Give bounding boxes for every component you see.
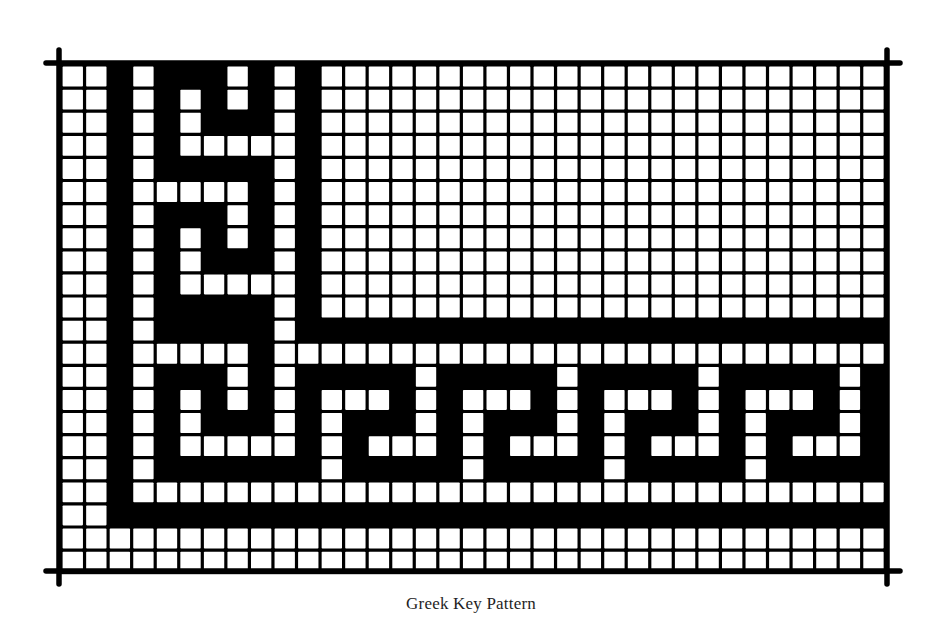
mosaic-tile-white (793, 228, 813, 248)
mosaic-tile-white (840, 90, 860, 110)
mosaic-tile-white (651, 90, 671, 110)
mosaic-tile-white (63, 298, 83, 318)
mosaic-tile-white (534, 298, 554, 318)
mosaic-tile-white (746, 67, 766, 87)
mosaic-tile-white (439, 482, 459, 502)
mosaic-tile-white (604, 67, 624, 87)
mosaic-tile-white (604, 390, 624, 410)
mosaic-tile-white (439, 67, 459, 87)
mosaic-tile-white (510, 251, 530, 271)
mosaic-tile-white (487, 390, 507, 410)
mosaic-tile-white (322, 275, 342, 295)
mosaic-tile-white (86, 529, 106, 549)
mosaic-tile-white (581, 136, 601, 156)
mosaic-tile-white (86, 228, 106, 248)
mosaic-tile-white (63, 344, 83, 364)
mosaic-tile-white (63, 67, 83, 87)
mosaic-tile-white (604, 251, 624, 271)
mosaic-tile-white (816, 228, 836, 248)
mosaic-tile-white (840, 228, 860, 248)
mosaic-tile-white (534, 529, 554, 549)
mosaic-tile-white (63, 113, 83, 133)
mosaic-tile-white (604, 205, 624, 225)
mosaic-tile-white (180, 436, 200, 456)
mosaic-tile-white (628, 344, 648, 364)
mosaic-tile-white (204, 182, 224, 202)
mosaic-tile-white (133, 413, 153, 433)
mosaic-tile-white (746, 90, 766, 110)
mosaic-tile-white (487, 298, 507, 318)
greek-key-mosaic-grid (0, 0, 950, 644)
mosaic-tile-white (345, 275, 365, 295)
mosaic-tile-white (463, 205, 483, 225)
mosaic-tile-white (369, 344, 389, 364)
mosaic-tile-white (722, 205, 742, 225)
mosaic-tile-white (369, 228, 389, 248)
mosaic-tile-white (322, 298, 342, 318)
mosaic-tile-white (86, 482, 106, 502)
mosaic-tile-white (227, 390, 247, 410)
mosaic-tile-white (227, 482, 247, 502)
mosaic-tile-white (439, 298, 459, 318)
mosaic-tile-white (369, 205, 389, 225)
mosaic-tile-white (557, 67, 577, 87)
mosaic-tile-white (133, 182, 153, 202)
mosaic-tile-white (840, 482, 860, 502)
mosaic-tile-white (86, 67, 106, 87)
mosaic-tile-white (133, 390, 153, 410)
mosaic-tile-white (86, 344, 106, 364)
mosaic-tile-white (534, 113, 554, 133)
mosaic-tile-white (746, 228, 766, 248)
mosaic-tile-white (651, 275, 671, 295)
mosaic-tile-white (133, 67, 153, 87)
mosaic-tile-white (675, 113, 695, 133)
mosaic-tile-white (133, 228, 153, 248)
mosaic-tile-white (651, 344, 671, 364)
mosaic-tile-white (345, 90, 365, 110)
mosaic-tile-white (369, 90, 389, 110)
mosaic-tile-white (816, 275, 836, 295)
mosaic-tile-white (416, 367, 436, 387)
mosaic-tile-white (698, 90, 718, 110)
mosaic-tile-white (487, 182, 507, 202)
mosaic-tile-white (369, 436, 389, 456)
mosaic-tile-white (322, 344, 342, 364)
mosaic-tile-white (345, 67, 365, 87)
mosaic-tile-white (793, 136, 813, 156)
mosaic-tile-white (769, 251, 789, 271)
mosaic-tile-white (604, 90, 624, 110)
mosaic-tile-white (275, 413, 295, 433)
mosaic-tile-white (86, 205, 106, 225)
mosaic-tile-white (369, 251, 389, 271)
mosaic-tile-white (793, 275, 813, 295)
mosaic-tile-white (863, 228, 883, 248)
mosaic-tile-white (86, 459, 106, 479)
mosaic-tile-white (769, 344, 789, 364)
mosaic-tile-white (557, 159, 577, 179)
mosaic-tile-white (487, 113, 507, 133)
mosaic-tile-white (251, 275, 271, 295)
mosaic-tile-white (463, 113, 483, 133)
mosaic-tile-white (534, 228, 554, 248)
mosaic-tile-white (322, 136, 342, 156)
mosaic-tile-white (416, 90, 436, 110)
mosaic-tile-white (863, 67, 883, 87)
mosaic-tile-white (628, 182, 648, 202)
mosaic-tile-white (439, 113, 459, 133)
mosaic-tile-white (510, 482, 530, 502)
mosaic-tile-white (840, 436, 860, 456)
mosaic-tile-white (746, 275, 766, 295)
mosaic-tile-white (581, 529, 601, 549)
mosaic-tile-white (322, 182, 342, 202)
mosaic-tile-white (416, 298, 436, 318)
mosaic-tile-white (534, 482, 554, 502)
mosaic-tile-white (863, 182, 883, 202)
mosaic-tile-white (769, 390, 789, 410)
mosaic-tile-white (86, 159, 106, 179)
mosaic-tile-white (722, 482, 742, 502)
mosaic-tile-white (86, 436, 106, 456)
mosaic-tile-white (463, 482, 483, 502)
mosaic-tile-white (557, 182, 577, 202)
mosaic-tile-white (604, 228, 624, 248)
mosaic-tile-white (534, 182, 554, 202)
